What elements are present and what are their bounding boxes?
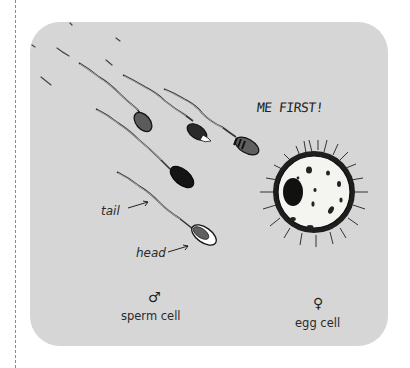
motion-stroke (116, 38, 120, 41)
motion-stroke (32, 45, 35, 47)
head-arrow (168, 245, 188, 252)
me-first-exclamation: ME FIRST! (256, 100, 324, 115)
tail-label: tail (101, 204, 120, 218)
head-label: head (136, 246, 166, 260)
motion-stroke (70, 23, 72, 25)
fertilization-illustration (0, 0, 410, 368)
egg-cell (260, 140, 368, 247)
egg-cell-caption: egg cell (295, 316, 340, 330)
sperm-2 (79, 63, 155, 135)
motion-stroke (41, 77, 51, 85)
motion-stroke (57, 48, 69, 56)
tail-arrow (128, 201, 148, 208)
male-symbol-icon: ♂ (148, 289, 161, 305)
sperm-striped (164, 89, 262, 159)
sperm-labeled (117, 172, 220, 249)
sperm-cell-caption: sperm cell (121, 309, 181, 323)
female-symbol-icon: ♀ (313, 295, 323, 311)
motion-stroke (106, 60, 112, 65)
